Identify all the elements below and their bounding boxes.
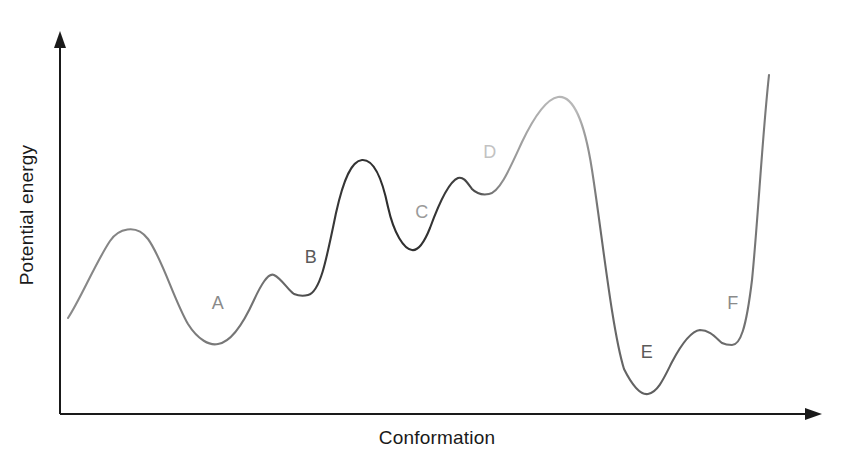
well-label-c: C (415, 202, 428, 222)
x-axis-arrowhead (805, 408, 822, 420)
energy-well-labels: ABCDEF (212, 142, 739, 362)
well-label-d: D (483, 142, 496, 162)
well-label-b: B (305, 247, 317, 267)
well-label-f: F (727, 293, 738, 313)
y-axis-title: Potential energy (16, 144, 37, 285)
well-label-a: A (212, 293, 224, 313)
x-axis-title: Conformation (379, 427, 495, 448)
potential-energy-curve (68, 75, 769, 394)
well-label-e: E (641, 342, 653, 362)
energy-landscape-plot: Conformation Potential energy ABCDEF (0, 0, 855, 476)
potential-energy-landscape-figure: Conformation Potential energy ABCDEF (0, 0, 855, 476)
y-axis-arrowhead (54, 31, 66, 48)
